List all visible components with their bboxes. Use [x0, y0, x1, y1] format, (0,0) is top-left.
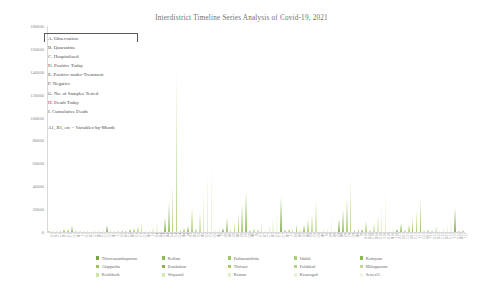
- legend-label: Kollam: [168, 256, 181, 261]
- legend-swatch-icon: [162, 256, 165, 259]
- legend-row: ThiruvananthapuramKollamPathanamthittaId…: [96, 254, 426, 262]
- bar: [180, 230, 182, 232]
- legend-label: Idukki: [300, 256, 311, 261]
- variable-key-row: C. Hospitalized: [48, 52, 158, 61]
- y-tick-label: 20000: [33, 207, 44, 212]
- legend-swatch-icon: [228, 273, 231, 276]
- legend-item[interactable]: Palakkad: [294, 264, 360, 269]
- bar: [385, 189, 387, 232]
- bar: [323, 229, 325, 232]
- bar: [354, 230, 356, 232]
- bar: [338, 219, 340, 232]
- bar: [423, 231, 425, 232]
- bar: [75, 231, 77, 232]
- bar: [214, 229, 216, 232]
- legend-swatch-icon: [96, 265, 99, 268]
- legend-label: Malappuram: [366, 264, 387, 269]
- bar: [311, 214, 313, 232]
- bar: [191, 208, 193, 232]
- bar: [160, 229, 162, 232]
- bar: [195, 228, 197, 232]
- legend-item[interactable]: Kasaragod: [294, 272, 360, 277]
- legend-item[interactable]: Kozhikode: [96, 272, 162, 277]
- bar: [98, 229, 100, 232]
- y-tick-label: 140000: [30, 69, 44, 74]
- bar: [396, 229, 398, 232]
- legend-label: Palakkad: [300, 264, 315, 269]
- x-tick-label: I12: [464, 233, 468, 238]
- legend-item[interactable]: Thiruvananthapuram: [96, 256, 162, 261]
- legend-item[interactable]: Kottayam: [360, 256, 426, 261]
- legend-swatch-icon: [96, 256, 99, 259]
- y-tick-label: 0: [42, 230, 44, 235]
- variable-key-row: D. Positive Today: [48, 61, 158, 70]
- bar: [427, 229, 429, 232]
- bar: [87, 230, 89, 232]
- bar: [234, 222, 236, 232]
- legend-label: Pathanamthitta: [234, 256, 259, 261]
- bar: [133, 228, 135, 232]
- bar: [280, 197, 282, 232]
- bar: [114, 231, 116, 232]
- bar: [292, 229, 294, 232]
- bar: [261, 222, 263, 232]
- y-tick-label: 60000: [33, 161, 44, 166]
- bar: [102, 228, 104, 232]
- variable-key-row: F. Negative: [48, 79, 158, 88]
- bar: [122, 230, 124, 232]
- bar: [377, 215, 379, 232]
- legend-row: KozhikodeWayanadKannurKasaragodSeries15: [96, 271, 426, 279]
- bar: [369, 230, 371, 232]
- legend-item[interactable]: Pathanamthitta: [228, 256, 294, 261]
- bar: [218, 227, 220, 232]
- legend-item[interactable]: Thrissur: [228, 264, 294, 269]
- legend-label: Kottayam: [366, 256, 383, 261]
- legend-swatch-icon: [228, 256, 231, 259]
- bar: [269, 224, 271, 232]
- legend-label: Wayanad: [168, 272, 183, 277]
- legend-swatch-icon: [162, 265, 165, 268]
- legend-item[interactable]: Malappuram: [360, 264, 426, 269]
- bar: [412, 218, 414, 232]
- bar: [296, 224, 298, 232]
- bar: [106, 225, 108, 232]
- bar: [350, 178, 352, 232]
- legend-swatch-icon: [228, 265, 231, 268]
- legend-item[interactable]: Series15: [360, 272, 426, 277]
- bar: [79, 231, 81, 232]
- legend-label: Kasaragod: [300, 272, 318, 277]
- legend-item[interactable]: Alappuzha: [96, 264, 162, 269]
- bar: [60, 230, 62, 232]
- variable-key-row: B. Quarantine: [48, 43, 158, 52]
- bar: [331, 216, 333, 232]
- variable-key-row: E. Positive-under-Treatment: [48, 70, 158, 79]
- bar: [63, 229, 65, 232]
- bar: [435, 226, 437, 232]
- bar: [276, 210, 278, 232]
- y-tick-label: 100000: [30, 115, 44, 120]
- bar: [203, 194, 205, 232]
- bar: [288, 229, 290, 232]
- bar: [420, 199, 422, 232]
- bar: [83, 231, 85, 232]
- legend-label: Alappuzha: [102, 264, 120, 269]
- bar: [462, 230, 464, 232]
- legend-item[interactable]: Ernakulam: [162, 264, 228, 269]
- bar: [110, 231, 112, 232]
- bar: [241, 205, 243, 232]
- bar: [207, 173, 209, 233]
- legend-row: AlappuzhaErnakulamThrissurPalakkadMalapp…: [96, 262, 426, 270]
- bar: [392, 228, 394, 232]
- legend-item[interactable]: Idukki: [294, 256, 360, 261]
- bar: [365, 221, 367, 232]
- variable-key-row: G. No. of Samples Tested: [48, 89, 158, 98]
- bar: [91, 231, 93, 232]
- legend-label: Kozhikode: [102, 272, 120, 277]
- chart-title: Interdistrict Timeline Series Analysis o…: [0, 14, 483, 22]
- bar: [443, 227, 445, 232]
- legend-item[interactable]: Wayanad: [162, 272, 228, 277]
- legend-item[interactable]: Kannur: [228, 272, 294, 277]
- legend-swatch-icon: [360, 265, 363, 268]
- legend-swatch-icon: [360, 273, 363, 276]
- legend-item[interactable]: Kollam: [162, 256, 228, 261]
